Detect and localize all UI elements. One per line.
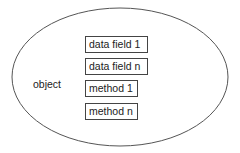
method-1-box: method 1 xyxy=(85,80,138,97)
object-ellipse xyxy=(0,0,240,153)
method-n-box: method n xyxy=(85,103,138,120)
object-label: object xyxy=(33,78,61,90)
data-field-1-box: data field 1 xyxy=(85,36,148,53)
data-field-n-box: data field n xyxy=(85,58,148,75)
object-diagram: object data field 1 data field n method … xyxy=(0,0,240,153)
